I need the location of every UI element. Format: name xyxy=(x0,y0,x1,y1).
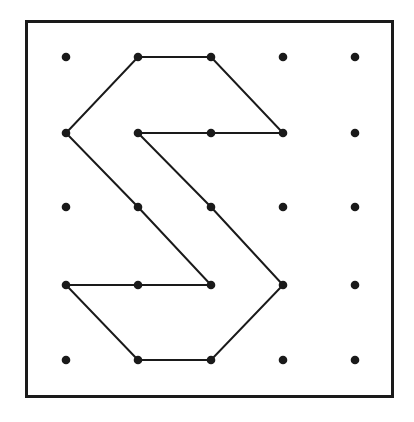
peg-dot-r0-c0[interactable] xyxy=(62,53,71,62)
peg-dot-r4-c4[interactable] xyxy=(351,356,360,365)
peg-dot-r1-c3[interactable] xyxy=(279,129,288,138)
peg-dot-r0-c4[interactable] xyxy=(351,53,360,62)
geoboard-svg xyxy=(0,0,414,422)
peg-dot-r2-c3[interactable] xyxy=(279,203,288,212)
peg-dot-r4-c2[interactable] xyxy=(207,356,216,365)
peg-dot-r3-c4[interactable] xyxy=(351,281,360,290)
peg-dot-r2-c1[interactable] xyxy=(134,203,143,212)
peg-dot-r2-c2[interactable] xyxy=(207,203,216,212)
peg-dot-r0-c2[interactable] xyxy=(207,53,216,62)
peg-dot-r4-c1[interactable] xyxy=(134,356,143,365)
peg-dot-r1-c1[interactable] xyxy=(134,129,143,138)
peg-dot-r4-c3[interactable] xyxy=(279,356,288,365)
peg-dot-r1-c0[interactable] xyxy=(62,129,71,138)
peg-dot-r4-c0[interactable] xyxy=(62,356,71,365)
peg-dot-r3-c0[interactable] xyxy=(62,281,71,290)
peg-dot-r0-c3[interactable] xyxy=(279,53,288,62)
peg-dot-r3-c1[interactable] xyxy=(134,281,143,290)
peg-dot-r2-c4[interactable] xyxy=(351,203,360,212)
peg-dot-r3-c2[interactable] xyxy=(207,281,216,290)
peg-dot-r2-c0[interactable] xyxy=(62,203,71,212)
peg-dot-r1-c4[interactable] xyxy=(351,129,360,138)
peg-dot-r0-c1[interactable] xyxy=(134,53,143,62)
peg-dot-r1-c2[interactable] xyxy=(207,129,216,138)
geoboard-canvas xyxy=(0,0,414,422)
peg-dot-r3-c3[interactable] xyxy=(279,281,288,290)
